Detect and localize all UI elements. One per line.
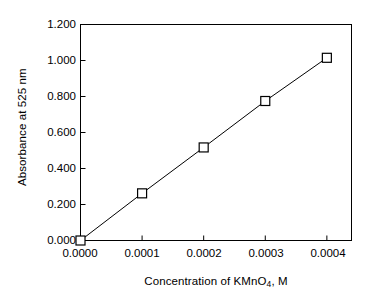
data-point-marker — [322, 53, 331, 62]
data-point-marker — [76, 236, 85, 245]
chart-figure: Absorbance at 525 nm 1.200 1.000 0.800 0… — [0, 0, 370, 301]
plot-area — [0, 0, 370, 301]
data-point-marker — [199, 143, 208, 152]
plot-frame — [81, 25, 352, 241]
data-point-marker — [261, 97, 270, 106]
data-point-marker — [138, 189, 147, 198]
